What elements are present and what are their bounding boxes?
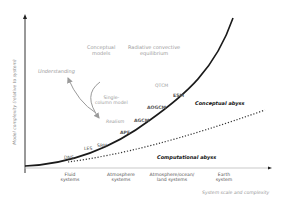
les-label: LES (84, 146, 92, 151)
aogcm-label: AOGCM (147, 105, 166, 110)
x-category-fluid: Fluid systems (55, 172, 85, 183)
diagram: Model complexity (relative to system) Co… (0, 0, 292, 206)
y-axis-label: Model complexity (relative to system) (12, 59, 17, 144)
conceptual-models-label: Conceptual models (87, 45, 115, 57)
x-category-atmosphere-ocean-land: Atmosphere/ocean/ land systems (144, 172, 200, 183)
qtcm-label: QTCM (155, 83, 168, 88)
x-axis-label: System scale and complexity (202, 190, 269, 195)
realism-label: Realism (106, 119, 124, 124)
single-column-model-label: Single- column model (95, 95, 128, 106)
understanding-arrow (68, 78, 96, 113)
radiative-convective-label: Radiative convective equilibrium (128, 45, 180, 57)
understanding-label: Understanding (38, 69, 75, 75)
x-category-earth: Earth system (209, 172, 239, 183)
srm-label: SRM (97, 143, 107, 148)
x-axis-arrow-icon (268, 167, 272, 170)
y-axis-arrow-icon (23, 14, 27, 19)
computational-abyss-label: Computational abyss (157, 155, 216, 161)
agcm-label: AGCM (134, 118, 149, 123)
x-category-atmosphere: Atmosphere systems (101, 172, 141, 183)
conceptual-abyss-label: Conceptual abyss (195, 101, 245, 107)
ape-label: APE (120, 130, 130, 135)
esm-label: ESM (173, 93, 184, 98)
conceptual-abyss-curve (25, 18, 233, 166)
dns-label: DNS (64, 155, 74, 160)
